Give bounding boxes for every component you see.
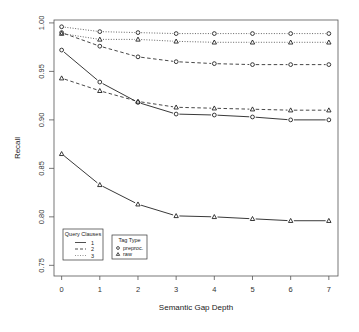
data-point-circle bbox=[327, 32, 331, 36]
series-line-segment bbox=[179, 114, 211, 115]
x-tick-label: 1 bbox=[98, 285, 102, 294]
data-point-circle bbox=[212, 32, 216, 36]
data-point-circle bbox=[251, 63, 255, 67]
series-line-segment bbox=[141, 40, 173, 42]
series-line-segment bbox=[218, 217, 250, 219]
data-point-triangle bbox=[250, 40, 254, 44]
legend-tag-type: Tag Type preproc. raw bbox=[112, 235, 147, 259]
data-point-circle bbox=[289, 63, 293, 67]
data-point-circle bbox=[136, 55, 140, 59]
data-point-triangle bbox=[250, 216, 254, 220]
y-tick-label: 0.95 bbox=[37, 64, 46, 79]
series-line-segment bbox=[141, 205, 173, 215]
series-1-clause-preproc bbox=[60, 48, 331, 122]
series-line-segment bbox=[256, 109, 288, 110]
data-point-circle bbox=[327, 63, 331, 67]
data-point-triangle bbox=[98, 88, 102, 92]
series-line-segment bbox=[65, 27, 97, 31]
x-tick-label: 0 bbox=[60, 285, 64, 294]
series-line-segment bbox=[141, 102, 173, 107]
data-point-triangle bbox=[98, 37, 102, 41]
y-tick-label: 1.00 bbox=[37, 16, 46, 31]
recall-line-chart: 0.750.800.850.900.951.00 01234567 Semant… bbox=[0, 0, 359, 332]
series-line-segment bbox=[179, 62, 211, 64]
data-point-circle bbox=[289, 32, 293, 36]
series-line-segment bbox=[65, 79, 97, 90]
series-1-clause-raw bbox=[59, 152, 331, 223]
series-line-segment bbox=[65, 34, 97, 39]
data-point-triangle bbox=[327, 108, 331, 112]
data-point-circle bbox=[212, 62, 216, 66]
data-point-triangle bbox=[174, 39, 178, 43]
legend-tag-type-title: Tag Type bbox=[118, 237, 140, 243]
series-layer bbox=[59, 25, 331, 223]
y-axis-title: Recall bbox=[13, 137, 22, 159]
data-point-triangle bbox=[288, 40, 292, 44]
data-point-circle bbox=[212, 113, 216, 117]
x-tick-label: 6 bbox=[289, 285, 293, 294]
data-point-triangle bbox=[59, 76, 63, 80]
x-tick-label: 5 bbox=[250, 285, 254, 294]
data-point-circle bbox=[136, 31, 140, 35]
series-line-segment bbox=[103, 92, 135, 101]
legend-label-clauses-1: 1 bbox=[91, 240, 94, 246]
data-point-triangle bbox=[327, 40, 331, 44]
data-point-circle bbox=[98, 44, 102, 48]
data-point-triangle bbox=[174, 214, 178, 218]
series-line-segment bbox=[64, 156, 97, 183]
data-point-triangle bbox=[136, 37, 140, 41]
data-point-triangle bbox=[327, 218, 331, 222]
series-line-segment bbox=[103, 186, 135, 202]
data-point-circle bbox=[251, 115, 255, 119]
data-point-triangle bbox=[136, 202, 140, 206]
series-line-segment bbox=[141, 57, 173, 61]
data-point-circle bbox=[98, 80, 102, 84]
series-3-clause-preproc bbox=[60, 25, 331, 36]
legend-query-clauses: Query Clauses 1 2 3 bbox=[63, 229, 103, 260]
x-tick-label: 4 bbox=[212, 285, 216, 294]
data-point-circle bbox=[251, 32, 255, 36]
data-point-triangle bbox=[59, 152, 63, 156]
x-axis-title: Semantic Gap Depth bbox=[159, 303, 233, 312]
series-line-segment bbox=[256, 219, 288, 221]
data-point-circle bbox=[174, 32, 178, 36]
data-point-triangle bbox=[212, 106, 216, 110]
series-2-clause-preproc bbox=[60, 31, 331, 67]
data-point-triangle bbox=[288, 218, 292, 222]
x-tick-label: 2 bbox=[136, 285, 140, 294]
series-line-segment bbox=[218, 115, 250, 117]
x-tick-label: 3 bbox=[174, 285, 178, 294]
series-line-segment bbox=[141, 33, 173, 34]
series-line-segment bbox=[64, 52, 97, 80]
series-line-segment bbox=[65, 34, 97, 45]
data-point-circle bbox=[60, 48, 64, 52]
y-tick-label: 0.85 bbox=[37, 161, 46, 176]
series-line-segment bbox=[179, 216, 211, 217]
data-point-triangle bbox=[288, 108, 292, 112]
data-point-triangle bbox=[212, 40, 216, 44]
x-tick-label: 7 bbox=[327, 285, 331, 294]
data-point-triangle bbox=[174, 105, 178, 109]
series-line-segment bbox=[103, 84, 136, 101]
x-axis: 01234567 bbox=[60, 276, 331, 294]
data-point-triangle bbox=[98, 183, 102, 187]
data-point-circle bbox=[174, 60, 178, 64]
data-point-circle bbox=[174, 112, 178, 116]
legend-label-clauses-2: 2 bbox=[91, 246, 94, 252]
series-line-segment bbox=[103, 47, 135, 56]
series-line-segment bbox=[103, 32, 135, 33]
data-point-triangle bbox=[136, 99, 140, 103]
series-line-segment bbox=[179, 41, 211, 42]
data-point-circle bbox=[60, 25, 64, 29]
y-axis: 0.750.800.850.900.951.00 bbox=[37, 16, 54, 273]
legend-label-clauses-3: 3 bbox=[91, 253, 94, 259]
y-tick-label: 0.80 bbox=[37, 210, 46, 225]
series-line-segment bbox=[218, 108, 250, 109]
data-point-circle bbox=[289, 118, 293, 122]
legend-label-raw: raw bbox=[123, 251, 132, 257]
series-line-segment bbox=[218, 64, 250, 65]
y-tick-label: 0.90 bbox=[37, 113, 46, 128]
series-2-clause-raw bbox=[59, 76, 331, 112]
series-line-segment bbox=[179, 107, 211, 108]
y-tick-label: 0.75 bbox=[37, 258, 46, 273]
